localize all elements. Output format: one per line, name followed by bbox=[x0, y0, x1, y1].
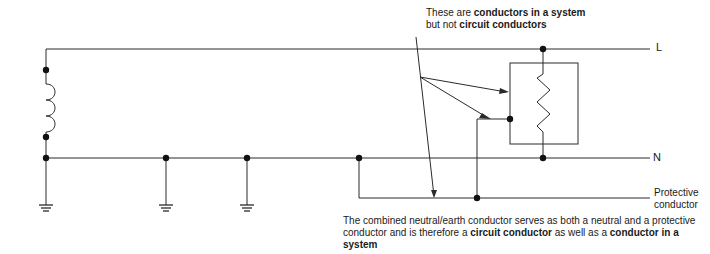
note-bold: circuit conductors bbox=[459, 19, 546, 30]
label-protective-conductor: Protective conductor bbox=[654, 187, 698, 211]
label-neutral: N bbox=[653, 151, 661, 163]
label-line: L bbox=[656, 41, 662, 53]
note-text: These are bbox=[426, 7, 474, 18]
resistor-icon bbox=[537, 74, 550, 132]
note-bold: conductors in a system bbox=[474, 7, 586, 18]
note-bold: circuit conductor bbox=[470, 227, 552, 238]
note-text: but not bbox=[426, 19, 459, 30]
transformer-winding-icon bbox=[46, 84, 55, 132]
note-text: as well as a bbox=[552, 227, 610, 238]
top-annotation: These are conductors in a system but not… bbox=[426, 7, 586, 31]
appliance-enclosure bbox=[510, 63, 578, 144]
label-text: Protective bbox=[654, 187, 698, 198]
label-text: conductor bbox=[654, 199, 698, 210]
bottom-annotation: The combined neutral/earth conductor ser… bbox=[343, 215, 708, 251]
earth-icon bbox=[39, 205, 254, 211]
